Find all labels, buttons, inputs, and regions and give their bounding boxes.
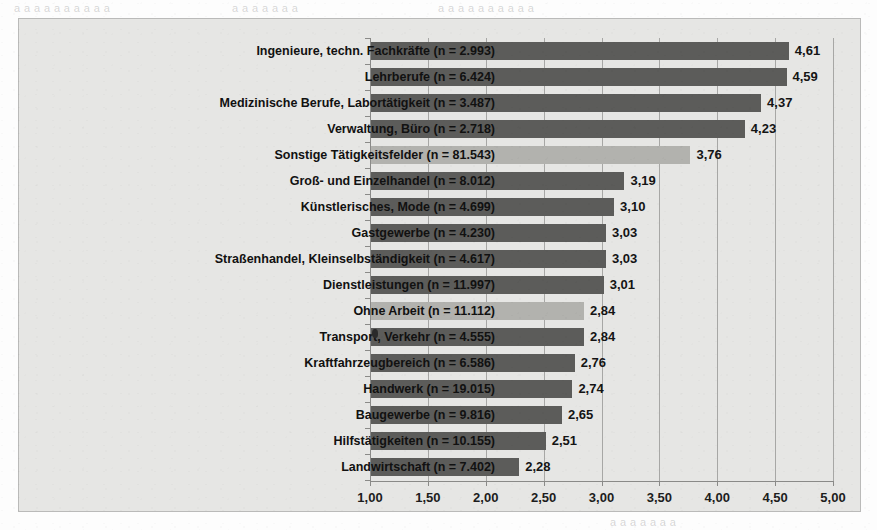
y-axis-tick xyxy=(365,90,370,91)
bar-value-label: 4,59 xyxy=(793,68,818,86)
y-axis-tick xyxy=(365,324,370,325)
x-axis-tick xyxy=(775,481,776,486)
x-axis-tick xyxy=(486,481,487,486)
page-bleed-text-top-center: a a a a a a a xyxy=(232,2,298,14)
x-axis-tick xyxy=(544,481,545,486)
category-label: Medizinische Berufe, Labortätigkeit (n =… xyxy=(220,94,495,112)
x-axis-tick xyxy=(428,481,429,486)
bar-value-label: 4,37 xyxy=(767,94,792,112)
category-label: Handwerk (n = 19.015) xyxy=(363,380,495,398)
bar-value-label: 3,10 xyxy=(620,198,645,216)
x-gridline xyxy=(833,38,834,481)
bar-value-label: 2,51 xyxy=(552,432,577,450)
bar-value-label: 4,61 xyxy=(795,42,820,60)
bar-value-label: 2,76 xyxy=(581,354,606,372)
x-axis-tick-label: 4,00 xyxy=(705,490,730,505)
category-label: Kraftfahrzeugbereich (n = 6.586) xyxy=(304,354,495,372)
y-axis-tick xyxy=(365,272,370,273)
category-label: Transport, Verkehr (n = 4.555) xyxy=(320,328,495,346)
category-label: Gastgewerbe (n = 4.230) xyxy=(352,224,495,242)
x-axis-tick xyxy=(659,481,660,486)
y-axis-tick xyxy=(365,168,370,169)
bar-value-label: 2,28 xyxy=(525,458,550,476)
y-axis-tick xyxy=(365,64,370,65)
category-label: Lehrberufe (n = 6.424) xyxy=(365,68,495,86)
category-label: Sonstige Tätigkeitsfelder (n = 81.543) xyxy=(274,146,495,164)
x-axis-tick xyxy=(370,481,371,486)
y-axis-tick xyxy=(365,142,370,143)
y-axis-tick xyxy=(365,194,370,195)
bar-value-label: 2,65 xyxy=(568,406,593,424)
category-label: Verwaltung, Büro (n = 2.718) xyxy=(327,120,495,138)
category-label: Straßenhandel, Kleinselbständigkeit (n =… xyxy=(215,250,495,268)
x-axis-tick-label: 1,50 xyxy=(415,490,440,505)
x-axis-tick xyxy=(717,481,718,486)
scan-artifact-ink-blot xyxy=(372,329,378,338)
y-axis-tick xyxy=(365,428,370,429)
x-axis-tick-label: 2,50 xyxy=(531,490,556,505)
chart-panel: 1,001,502,002,503,003,504,004,505,004,61… xyxy=(18,18,861,512)
y-axis-tick xyxy=(365,454,370,455)
page-bleed-text-bottom: a a a a a a a xyxy=(610,516,676,528)
bar-value-label: 3,19 xyxy=(630,172,655,190)
y-axis-tick xyxy=(365,38,370,39)
bar-value-label: 3,01 xyxy=(610,276,635,294)
bar-value-label: 3,03 xyxy=(612,224,637,242)
category-label: Baugewerbe (n = 9.816) xyxy=(356,406,495,424)
y-axis-tick xyxy=(365,246,370,247)
x-axis-tick-label: 4,50 xyxy=(762,490,787,505)
y-axis-tick xyxy=(365,350,370,351)
bar-value-label: 4,23 xyxy=(751,120,776,138)
y-axis-tick xyxy=(365,402,370,403)
category-label: Landwirtschaft (n = 7.402) xyxy=(341,458,495,476)
bar-value-label: 2,84 xyxy=(590,328,615,346)
category-label: Ingenieure, techn. Fachkräfte (n = 2.993… xyxy=(256,42,495,60)
y-axis-tick xyxy=(365,298,370,299)
x-axis-tick-label: 1,00 xyxy=(357,490,382,505)
y-axis-tick xyxy=(365,480,370,481)
bar-value-label: 3,03 xyxy=(612,250,637,268)
x-axis-tick-label: 5,00 xyxy=(820,490,845,505)
category-label: Hilfstätigkeiten (n = 10.155) xyxy=(333,432,495,450)
chart-screenshot: a a a a a a a a a a a a a a a a a a a a … xyxy=(0,0,877,530)
category-label: Ohne Arbeit (n = 11.112) xyxy=(353,302,495,320)
y-axis-tick xyxy=(365,116,370,117)
y-axis-tick xyxy=(365,376,370,377)
category-label: Groß- und Einzelhandel (n = 8.012) xyxy=(290,172,495,190)
page-bleed-text-top-right: a a a a a a a a a a xyxy=(438,2,534,14)
x-axis-tick-label: 3,50 xyxy=(647,490,672,505)
category-label: Dienstleistungen (n = 11.997) xyxy=(323,276,495,294)
bar-value-label: 2,84 xyxy=(590,302,615,320)
bar-value-label: 2,74 xyxy=(578,380,603,398)
x-axis-tick-label: 2,00 xyxy=(473,490,498,505)
category-label: Künstlerisches, Mode (n = 4.699) xyxy=(301,198,495,216)
x-axis-tick xyxy=(602,481,603,486)
page-bleed-text-top-left: a a a a a a a a a a xyxy=(14,2,110,14)
y-axis-tick xyxy=(365,220,370,221)
bar-value-label: 3,76 xyxy=(696,146,721,164)
x-axis-tick xyxy=(833,481,834,486)
x-axis-tick-label: 3,00 xyxy=(589,490,614,505)
